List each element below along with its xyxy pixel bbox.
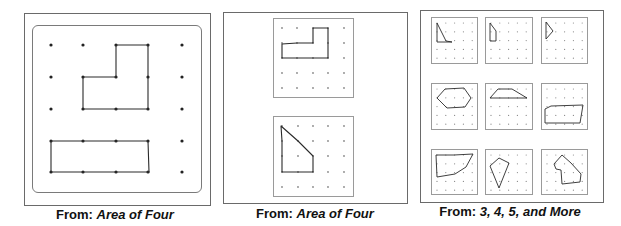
dot-grid-card (541, 17, 588, 64)
dot-grid-card (431, 149, 478, 195)
dot-grid-card (431, 83, 478, 130)
caption-source-title: Area of Four (297, 206, 374, 221)
dot-grid-card (541, 149, 588, 195)
dot-grid-card (485, 17, 533, 64)
caption-prefix: From: (256, 206, 293, 221)
dot-grid-card (273, 18, 354, 98)
dot-grid-card (541, 83, 588, 130)
dot-grid-card (485, 149, 533, 195)
dot-grid-card (273, 116, 354, 197)
caption-panel-2: From: Area of Four (256, 206, 374, 221)
caption-prefix: From: (439, 204, 476, 219)
caption-source-title: Area of Four (97, 207, 174, 222)
dot-grid-card (485, 83, 533, 130)
caption-prefix: From: (56, 207, 93, 222)
caption-panel-1: From: Area of Four (56, 207, 174, 222)
caption-source-title: 3, 4, 5, and More (480, 204, 581, 219)
dot-grid-card (431, 17, 478, 64)
geoboard-border (32, 25, 202, 193)
caption-panel-3: From: 3, 4, 5, and More (439, 204, 581, 219)
